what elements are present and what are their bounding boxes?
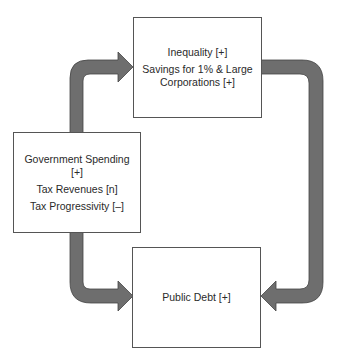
node-government-spending: Government Spending [+] Tax Revenues [n]… — [13, 132, 141, 233]
node-inequality: Inequality [+] Savings for 1% & Large Co… — [133, 17, 262, 118]
node-inequality-line-1: Inequality [+] — [168, 46, 228, 59]
arrow-top-to-bottom — [261, 60, 323, 311]
node-public-debt-line-1: Public Debt [+] — [162, 291, 231, 304]
node-government-line-1: Government Spending — [24, 153, 129, 166]
node-government-line-2: [+] — [71, 166, 83, 179]
node-government-line-4: Tax Progressivity [–] — [30, 200, 124, 213]
node-inequality-line-2: Savings for 1% & Large — [142, 63, 252, 76]
arrow-left-to-top — [70, 52, 133, 133]
arrow-left-to-bottom — [70, 232, 133, 311]
node-public-debt: Public Debt [+] — [132, 247, 261, 348]
node-inequality-line-3: Corporations [+] — [160, 76, 235, 89]
node-government-line-3: Tax Revenues [n] — [36, 183, 117, 196]
